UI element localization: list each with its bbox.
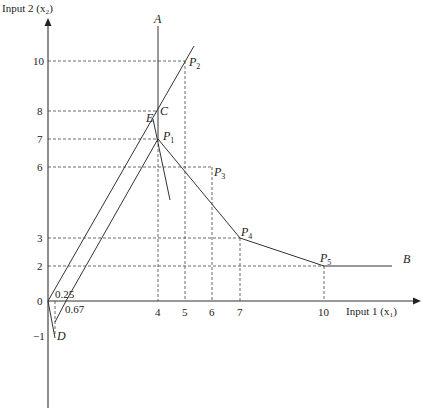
x-tick-10: 10: [318, 306, 330, 318]
tick-0-67: 0.67: [65, 303, 85, 315]
label-d: D: [56, 329, 66, 343]
y-axis-title: Input 2 (x₂): [2, 2, 53, 15]
x-tick-5: 5: [182, 306, 188, 318]
x-axis-arrow-icon: [413, 298, 421, 305]
tick-0-25: 0.25: [55, 288, 75, 300]
x-tick-4: 4: [155, 306, 161, 318]
x-tick-6: 6: [209, 306, 215, 318]
label-p5: P5: [319, 251, 331, 267]
y-tick-7: 7: [37, 133, 43, 145]
isoquant-diagram: Input 2 (x₂) Input 1 (x₁) 10 8 7 6 3 2 0…: [0, 0, 427, 416]
y-tick-2: 2: [37, 260, 43, 272]
label-b: B: [403, 252, 411, 266]
y-tick-6: 6: [37, 161, 43, 173]
label-e: E: [145, 111, 154, 125]
x-tick-7: 7: [237, 306, 243, 318]
ray-origin-p2: [48, 46, 194, 301]
label-p3: P3: [213, 165, 225, 181]
label-p1: P1: [162, 129, 174, 145]
y-tick-8: 8: [37, 105, 43, 117]
label-a: A: [153, 12, 162, 26]
label-p4: P4: [240, 225, 252, 241]
line-d-origin: [48, 301, 55, 338]
y-tick-3: 3: [37, 232, 43, 244]
y-tick-0: 0: [37, 295, 43, 307]
y-axis-arrow-icon: [45, 18, 52, 26]
y-tick-10: 10: [33, 55, 45, 67]
y-tick-neg1: −1: [33, 330, 45, 342]
label-p2: P2: [188, 55, 200, 71]
x-axis-title: Input 1 (x₁): [346, 305, 397, 318]
ray-p1-parallel: [66, 139, 158, 301]
label-c: C: [160, 104, 169, 118]
